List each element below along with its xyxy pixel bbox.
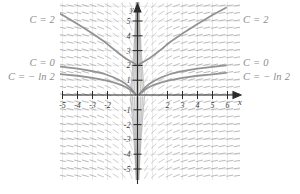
plot-canvas: -5-4-3-22345654321-1-2-3-4-5 x y	[0, 0, 300, 194]
y-axis-label: y	[129, 4, 134, 14]
y-tick-label: 2	[127, 61, 131, 70]
x-tick-label: -4	[74, 101, 81, 110]
y-tick-label: -4	[124, 150, 131, 159]
y-tick-label: 3	[126, 47, 131, 56]
y-tick-label: 4	[127, 32, 131, 41]
curve-label-right-c0: C = 0	[243, 57, 269, 68]
x-tick-label: 2	[166, 101, 170, 110]
x-tick-label: 6	[226, 101, 230, 110]
y-tick-label: -1	[124, 106, 131, 115]
y-tick-label: -2	[124, 121, 131, 130]
y-tick-label: 1	[127, 76, 131, 85]
x-tick-label: -3	[89, 101, 96, 110]
x-tick-label: -2	[104, 101, 111, 110]
x-tick-label: 4	[196, 101, 200, 110]
y-tick-label: -3	[124, 135, 131, 144]
curve-label-left-c0: C = 0	[0, 57, 55, 68]
curve-label-right-cln2: C = − ln 2	[243, 71, 290, 82]
slope-field-figure: -5-4-3-22345654321-1-2-3-4-5 x y C = 2 C…	[0, 0, 300, 194]
x-axis-label: x	[237, 97, 242, 107]
x-tick-label: 5	[211, 101, 215, 110]
y-tick-label: 5	[127, 17, 131, 26]
curve-label-right-c2: C = 2	[243, 14, 269, 25]
x-tick-label: 3	[180, 101, 185, 110]
curve-label-left-c2: C = 2	[0, 14, 55, 25]
curve-label-left-cln2: C = − ln 2	[0, 71, 55, 82]
x-tick-label: -5	[59, 101, 66, 110]
y-tick-label: -5	[124, 165, 131, 174]
